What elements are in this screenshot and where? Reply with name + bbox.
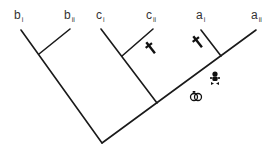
tip-label-c-i: ci — [96, 9, 105, 23]
dagger-icon — [143, 40, 158, 56]
dagger-icon — [190, 34, 205, 50]
tip-label-b-i: bi — [14, 9, 23, 23]
branch-cii — [122, 29, 153, 56]
branch-ai — [201, 30, 221, 56]
branch-bi-to-root — [21, 30, 102, 143]
branch-root-to-aii — [102, 30, 256, 143]
phylogenetic-tree-diagram — [0, 0, 272, 155]
tip-label-b-ii: bii — [64, 9, 75, 23]
tip-label-a-ii: aii — [251, 9, 262, 23]
tip-label-a-i: ai — [196, 9, 205, 23]
branch-ci — [101, 29, 157, 103]
rings-icon — [191, 91, 202, 101]
branch-bii — [39, 29, 70, 54]
tip-label-c-ii: cii — [146, 9, 156, 23]
baby-icon — [210, 71, 220, 85]
